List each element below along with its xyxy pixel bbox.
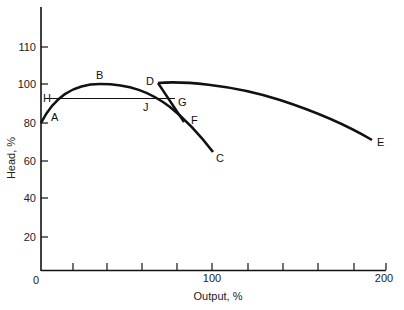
x-tick-100: 100 [203,272,221,284]
label-h: H [43,92,51,104]
y-tick-40: 40 [24,192,36,204]
label-c: C [216,152,224,164]
label-e: E [377,136,384,148]
x-axis-label: Output, % [194,290,243,302]
y-tick-80: 80 [24,117,36,129]
y-tick-60: 60 [24,155,36,167]
curve-d-e [158,82,372,140]
y-tick-20: 20 [24,231,36,243]
label-d: D [146,75,154,87]
y-tick-100: 100 [18,78,36,90]
label-f: F [191,114,198,126]
x-ticks [73,263,386,270]
curve-a-b-c [41,84,213,152]
y-axis-label: Head, % [5,137,17,179]
label-a: A [51,111,59,123]
label-j: J [143,101,149,113]
label-g: G [178,96,187,108]
x-tick-200: 200 [375,272,393,284]
label-b: B [96,69,103,81]
x-tick-0: 0 [33,274,39,286]
y-tick-110: 110 [18,41,36,53]
pump-characteristic-chart: 110 100 80 60 40 20 0 100 200 Output, % … [0,0,404,310]
y-ticks [41,47,48,237]
